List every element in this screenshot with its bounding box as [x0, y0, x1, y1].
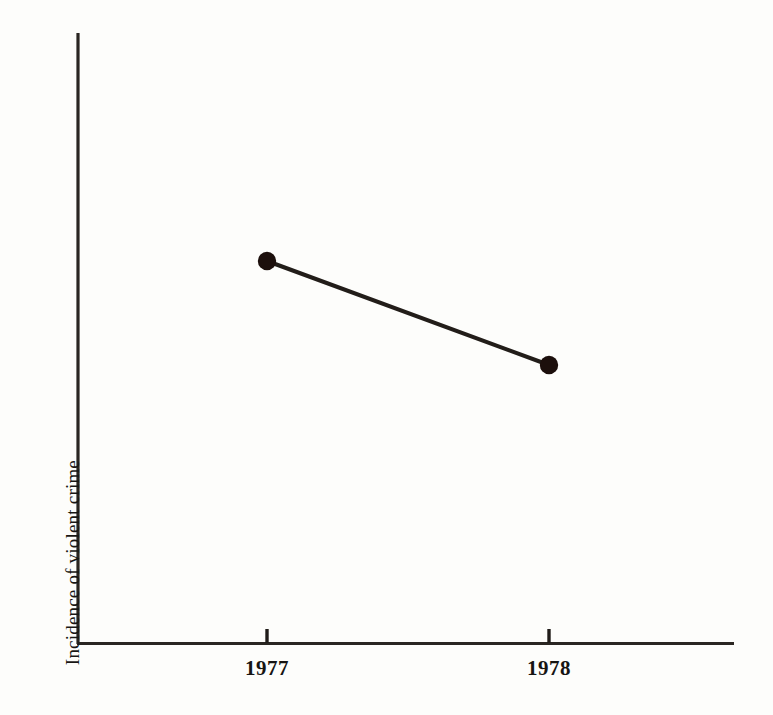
chart-canvas	[0, 0, 773, 715]
chart-background	[0, 0, 773, 715]
data-point-marker-1977[interactable]	[258, 252, 276, 270]
data-point-marker-1978[interactable]	[540, 356, 558, 374]
y-axis-title: Incidence of violent crime	[62, 460, 84, 665]
chart-figure: Incidence of violent crime 1977 1978	[0, 0, 773, 715]
x-axis-tick-label-1978: 1978	[527, 656, 571, 681]
x-axis-tick-label-1977: 1977	[245, 656, 289, 681]
